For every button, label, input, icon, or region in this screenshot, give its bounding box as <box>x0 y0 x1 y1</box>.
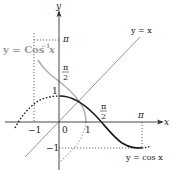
svg-text:2: 2 <box>101 112 106 121</box>
svg-text:π: π <box>101 102 106 111</box>
origin-label: 0 <box>62 125 68 135</box>
arccos-curve-label: y = Cos −1 x <box>2 42 56 55</box>
arccos-curve <box>38 60 86 122</box>
cos-dotted-part <box>15 96 60 128</box>
svg-text:π: π <box>63 63 68 72</box>
y-axis-label: y <box>55 1 62 11</box>
x-tick-neg-one: −1 <box>28 125 41 135</box>
cos-dotted-tail <box>142 146 151 148</box>
y-tick-neg-one: −1 <box>46 143 59 153</box>
cos-arccos-diagram: x y 0 −1 1 π 2 π 1 −1 π 2 π y = x y = co… <box>0 0 173 176</box>
cos-curve-label: y = cos x <box>125 153 163 162</box>
x-tick-pi: π <box>137 110 145 120</box>
x-axis-label: x <box>164 117 169 127</box>
svg-text:x: x <box>48 44 56 55</box>
y-tick-pi: π <box>62 34 70 44</box>
identity-line <box>25 37 140 157</box>
axes <box>5 12 162 170</box>
x-tick-pi-half: π 2 <box>100 102 107 121</box>
x-tick-one: 1 <box>85 125 91 135</box>
y-tick-one: 1 <box>52 86 58 96</box>
svg-text:2: 2 <box>63 73 68 82</box>
y-tick-pi-half: π 2 <box>62 63 69 82</box>
svg-text:y = Cos: y = Cos <box>2 44 45 55</box>
identity-line-label: y = x <box>130 26 152 35</box>
